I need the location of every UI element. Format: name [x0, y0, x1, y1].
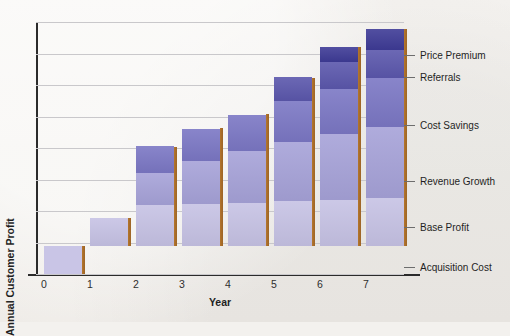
bar-segment-base-profit	[182, 204, 220, 246]
bar-segment-cost-savings	[182, 129, 220, 161]
bar-shadow	[266, 114, 269, 246]
annotation-tick-icon	[404, 267, 415, 268]
annotation-tick-icon	[404, 125, 415, 126]
annotation-referrals: Referrals	[404, 70, 461, 84]
plot-area	[36, 22, 404, 274]
x-tick-label-7: 7	[354, 278, 378, 290]
annotation-price-premium: Price Premium	[404, 48, 486, 62]
annotation-cost-savings: Cost Savings	[404, 118, 479, 132]
bar-segment-base-profit	[228, 203, 266, 246]
x-tick-label-1: 1	[78, 278, 102, 290]
bar-segment-revenue-growth	[274, 142, 312, 201]
annotation-label: Price Premium	[420, 50, 486, 61]
x-axis-title: Year	[36, 296, 404, 308]
gridline	[36, 274, 404, 275]
bar-segment-acquisition-cost	[44, 246, 82, 274]
bar-shadow	[174, 147, 177, 246]
annotation-label: Referrals	[420, 72, 461, 83]
x-tick-label-5: 5	[262, 278, 286, 290]
x-axis-ticks: 01234567	[36, 278, 404, 294]
bar-3	[182, 129, 220, 246]
annotation-label: Revenue Growth	[420, 176, 495, 187]
series-annotations: Price PremiumReferralsCost SavingsRevenu…	[404, 22, 510, 274]
bar-shadow	[220, 128, 223, 246]
bar-shadow	[312, 78, 315, 246]
bar-segment-cost-savings	[228, 115, 266, 151]
bar-segment-referrals	[274, 77, 312, 101]
annotation-base-profit: Base Profit	[404, 220, 469, 234]
bar-segment-revenue-growth	[182, 161, 220, 204]
bar-segment-base-profit	[136, 205, 174, 246]
bar-1	[90, 218, 128, 246]
annotation-tick-icon	[404, 181, 415, 182]
x-tick-label-2: 2	[124, 278, 148, 290]
bar-6	[320, 47, 358, 246]
bar-shadow	[82, 246, 85, 274]
annotation-revenue-growth: Revenue Growth	[404, 174, 495, 188]
bar-shadow	[358, 47, 361, 246]
bar-segment-cost-savings	[366, 78, 404, 127]
annotation-label: Acquisition Cost	[420, 262, 492, 273]
bar-segment-revenue-growth	[366, 127, 404, 198]
bar-segment-referrals	[320, 62, 358, 89]
annotation-tick-icon	[404, 227, 415, 228]
bar-segment-base-profit	[366, 198, 404, 246]
x-tick-label-3: 3	[170, 278, 194, 290]
bar-segment-price-premium	[320, 47, 358, 62]
annotation-label: Base Profit	[420, 222, 469, 233]
bar-segment-referrals	[366, 50, 404, 78]
bar-2	[136, 146, 174, 246]
x-tick-label-6: 6	[308, 278, 332, 290]
annotation-tick-icon	[404, 77, 415, 78]
x-tick-label-4: 4	[216, 278, 240, 290]
bar-7	[366, 29, 404, 246]
bar-segment-revenue-growth	[136, 173, 174, 205]
x-tick-label-0: 0	[32, 278, 56, 290]
bar-segment-base-profit	[274, 201, 312, 246]
annotation-tick-icon	[404, 55, 415, 56]
bar-segment-cost-savings	[320, 89, 358, 134]
bar-segment-cost-savings	[274, 101, 312, 142]
bar-group	[36, 22, 404, 274]
bar-segment-revenue-growth	[228, 151, 266, 203]
annotation-label: Cost Savings	[420, 120, 479, 131]
bar-segment-revenue-growth	[320, 134, 358, 200]
bar-segment-base-profit	[90, 218, 128, 246]
bar-5	[274, 77, 312, 246]
bar-segment-price-premium	[366, 29, 404, 50]
bar-segment-base-profit	[320, 200, 358, 246]
y-axis-title-wrap: Annual Customer Profit	[8, 240, 9, 241]
y-axis-title: Annual Customer Profit	[4, 176, 16, 336]
bar-segment-cost-savings	[136, 146, 174, 173]
annotation-acquisition-cost: Acquisition Cost	[404, 260, 492, 274]
bar-4	[228, 115, 266, 246]
bar-shadow	[128, 218, 131, 246]
